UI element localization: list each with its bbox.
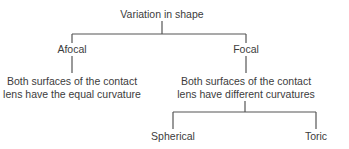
focal-description-line-2: lens have different curvatures [177, 88, 315, 101]
toric-node: Toric [305, 130, 327, 143]
root-node: Variation in shape [120, 8, 203, 21]
afocal-description-line-2: lens have the equal curvature [3, 88, 141, 101]
focal-description: Both surfaces of the contact lens have d… [177, 75, 315, 100]
afocal-description: Both surfaces of the contact lens have t… [3, 75, 141, 100]
afocal-description-line-1: Both surfaces of the contact [3, 75, 141, 88]
afocal-node: Afocal [57, 43, 86, 56]
focal-node: Focal [233, 43, 259, 56]
spherical-node: Spherical [151, 130, 195, 143]
focal-description-line-1: Both surfaces of the contact [177, 75, 315, 88]
